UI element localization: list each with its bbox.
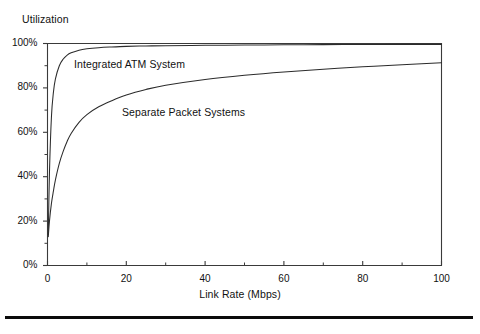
figure-container: Utilization Link Rate (Mbps) Integrated … [0,0,480,334]
bottom-horizontal-rule [5,316,473,319]
curve-label-integrated-atm-system: Integrated ATM System [74,58,185,70]
y-tick-label: 40% [4,170,38,181]
x-tick-label: 60 [264,273,304,284]
x-tick-label: 80 [343,273,383,284]
y-tick-label: 0% [4,259,38,270]
x-tick-label: 0 [28,273,68,284]
y-tick-label: 60% [4,126,38,137]
x-tick-label: 100 [422,273,462,284]
x-tick-label: 40 [185,273,225,284]
y-tick-label: 80% [4,81,38,92]
y-axis-title: Utilization [22,13,69,25]
curve-label-separate-packet-systems: Separate Packet Systems [122,106,245,118]
plot-frame [48,44,442,266]
tick-marks [43,44,442,266]
x-tick-label: 20 [106,273,146,284]
y-tick-label: 20% [4,215,38,226]
plot-area [0,0,480,334]
x-axis-title: Link Rate (Mbps) [0,288,480,300]
data-curves [48,44,441,236]
y-tick-label: 100% [4,37,38,48]
